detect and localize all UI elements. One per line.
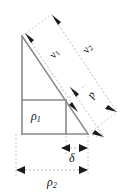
- geometry-figure: v1 v2 p ρ1 δ ρ2: [0, 0, 134, 196]
- inner-rectangle-shape: [22, 100, 66, 134]
- dimension-rho2: [16, 166, 88, 174]
- label-delta-base: δ: [69, 151, 75, 165]
- label-rho2: ρ2: [47, 176, 57, 190]
- dimension-v2-line: [52, 15, 117, 112]
- label-rho1: ρ1: [31, 110, 41, 124]
- dimension-p-arrow-start: [70, 87, 79, 97]
- label-delta: δ: [69, 152, 75, 164]
- dimension-delta-arrow-right: [79, 144, 88, 152]
- ext-line-bottom-right: [88, 112, 117, 134]
- dimension-p-arrow-end: [92, 130, 104, 137]
- ext-line-apex: [22, 14, 52, 36]
- figure-canvas: [0, 0, 134, 196]
- dimension-v2-arrow-start: [52, 15, 61, 25]
- label-rho1-sub: 1: [37, 115, 41, 124]
- dimension-v2-arrow-end: [105, 105, 117, 112]
- dimension-rho2-arrow-left: [16, 166, 25, 174]
- dimension-v2: [52, 15, 117, 112]
- label-rho2-sub: 2: [53, 181, 57, 190]
- dimension-rho2-arrow-right: [79, 166, 88, 174]
